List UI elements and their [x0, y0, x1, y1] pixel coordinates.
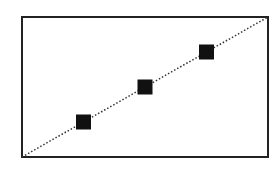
scatter-chart: [0, 0, 277, 175]
square-marker: [199, 45, 214, 60]
square-marker: [138, 80, 153, 95]
square-marker: [76, 115, 91, 130]
